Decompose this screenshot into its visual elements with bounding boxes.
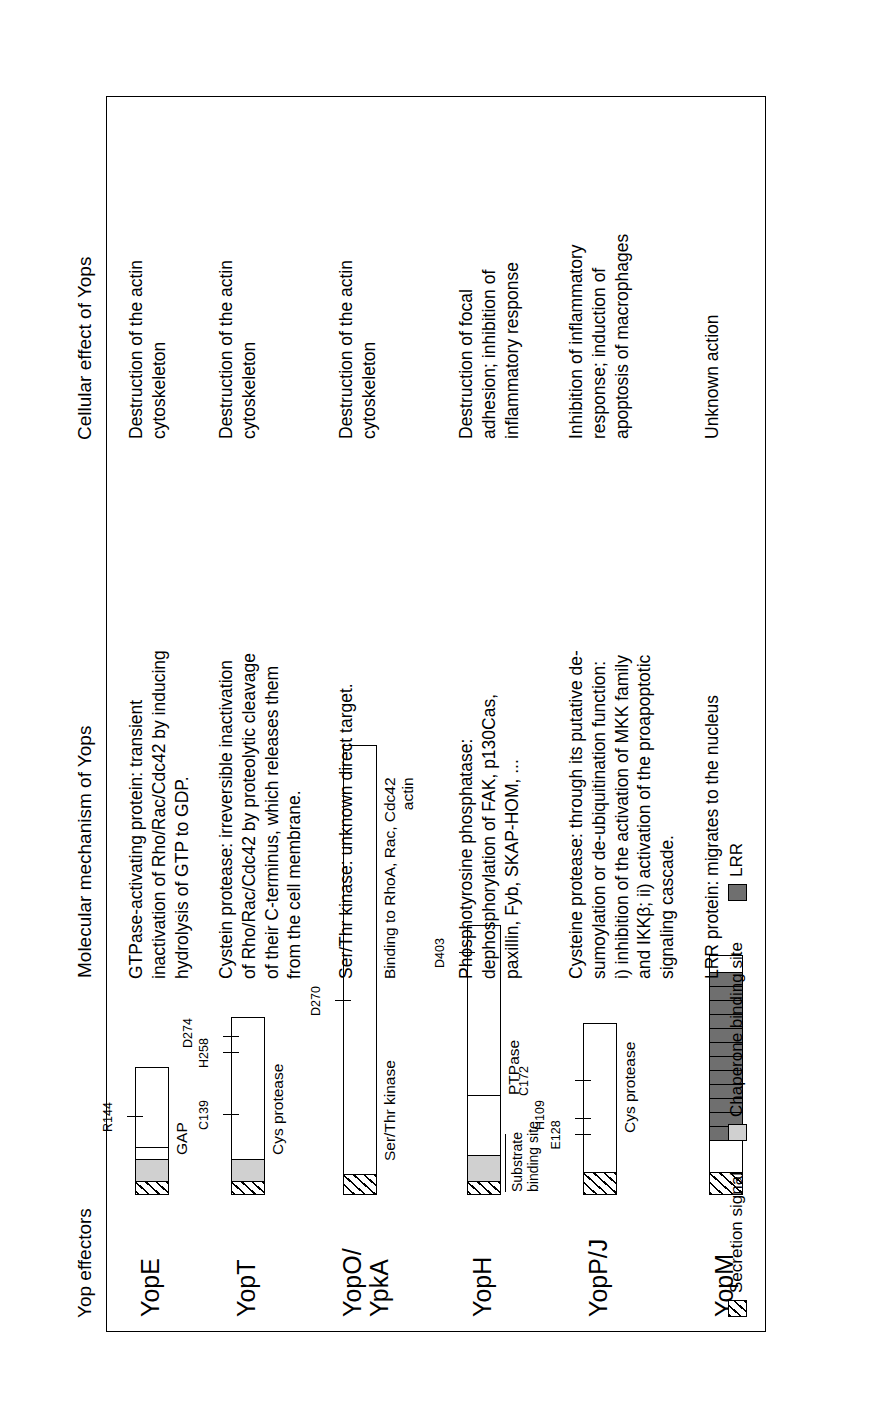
domain-caption-cys-protease: Cys protease [269,1064,287,1155]
mechanism-text-yopo: Ser/Thr kinase: unknown direct target. [335,649,358,979]
residue-tick [127,1116,143,1117]
residue-tick [575,1080,591,1081]
legend-item-secretion-signal: Secretion signal [727,1172,747,1317]
mechanism-text-yoppj: Cysteine protease: through its putative … [565,649,679,979]
mechanism-text-yopm: LRR protein: migrates to the nucleus [701,649,724,979]
light-gray-swatch-icon [728,1124,747,1141]
residue-tick [223,1052,239,1053]
row-label-yoppj: YopP/J [585,1239,612,1317]
secretion-signal-segment [584,1172,616,1194]
domain-caption-ser-thr-kinase: Ser/Thr kinase [381,1060,399,1161]
domain-divider [136,1147,168,1159]
domain-divider [468,1095,500,1155]
secretion-signal-segment [468,1181,500,1194]
residue-tick [223,1036,239,1037]
row-label-yoph: YopH [469,1257,496,1317]
table-row: YopT C139 H258 D274 Cys protease Cystein… [203,95,311,1331]
legend-label-chaperone-binding-site: Chaperone binding site [727,942,747,1117]
header-molecular-mechanism: Molecular mechanism of Yops [74,726,96,978]
dark-gray-swatch-icon [728,884,747,901]
residue-label-d270: D270 [309,986,323,1016]
mechanism-text-yopt: Cystein protease: irreversible inactivat… [215,649,306,979]
residue-label-r144: R144 [101,1102,115,1132]
mechanism-text-yope: GTPase-activating protein: transient ina… [125,649,193,979]
residue-tick [335,1000,351,1001]
mechanism-text-yoph: Phosphotyrosine phosphatase: dephosphory… [455,649,523,979]
domain-caption-cys-protease: Cys protease [621,1042,639,1133]
chaperone-binding-segment [232,1159,264,1181]
residue-tick [575,1118,591,1119]
residue-label-c139: C139 [197,1100,211,1130]
table-row: YopO/ YpkA D270 Ser/Thr kinase Binding t… [315,95,435,1331]
row-label-yope: YopE [137,1258,164,1317]
legend-item-chaperone-binding-site: Chaperone binding site [727,942,747,1141]
residue-label-h258: H258 [197,1038,211,1068]
residue-label-d274: D274 [181,1018,195,1048]
effect-text-yope: Destruction of the actin cytoskeleton [125,224,171,439]
substrate-binding-label: Substrate binding site [509,1121,541,1192]
figure-frame: YopE R144 GAP GTPase-activating protein:… [106,96,766,1332]
effect-text-yopt: Destruction of the actin cytoskeleton [215,224,261,439]
legend-label-secretion-signal: Secretion signal [727,1172,747,1293]
protein-bar-yoppj [583,1023,617,1195]
residue-tick [575,1134,591,1135]
domain-caption-gap: GAP [173,1122,191,1155]
row-label-yopo-ypka: YopO/ YpkA [339,1248,392,1317]
header-cellular-effect: Cellular effect of Yops [74,257,96,440]
effect-text-yoph: Destruction of focal adhesion; inhibitio… [455,224,523,439]
protein-bar-yopt [231,1017,265,1195]
protein-bar-yope [135,1067,169,1195]
table-row: YopH D403 PTPase Substrate binding site … [439,95,551,1331]
chaperone-binding-segment [468,1155,500,1181]
residue-label-d403: D403 [433,938,447,968]
effect-text-yopm: Unknown action [701,224,724,439]
effect-text-yoppj: Inhibition of inflammatory response; ind… [565,224,633,439]
substrate-binding-bracket [505,1134,506,1192]
residue-label-c172: C172 [517,1066,531,1096]
legend: Secretion signal Chaperone binding site … [727,95,761,1331]
figure-page: Yop effectors Molecular mechanism of Yop… [0,0,872,1420]
domain-caption-binding-region: Binding to RhoA, Rac, Cdc42 actin [381,777,417,979]
residue-tick [223,1114,239,1115]
header-yop-effectors: Yop effectors [74,1208,96,1318]
hatched-swatch-icon [728,1300,747,1317]
legend-item-lrr: LRR [727,843,747,901]
row-label-yopt: YopT [233,1260,260,1317]
secretion-signal-segment [344,1174,376,1194]
residue-label-h109: H109 [533,1100,547,1130]
legend-label-lrr: LRR [727,843,747,877]
secretion-signal-segment [232,1181,264,1194]
figure-stage: Yop effectors Molecular mechanism of Yop… [66,80,806,1340]
table-row: YopP/J E128 H109 C172 Cys protease Cyste… [555,95,681,1331]
column-headers: Yop effectors Molecular mechanism of Yop… [66,80,106,1340]
residue-label-e128: E128 [549,1120,563,1149]
table-row: YopE R144 GAP GTPase-activating protein:… [107,95,199,1331]
secretion-signal-segment [136,1181,168,1194]
effect-text-yopo: Destruction of the actin cytoskeleton [335,224,381,439]
chaperone-binding-segment [136,1159,168,1181]
